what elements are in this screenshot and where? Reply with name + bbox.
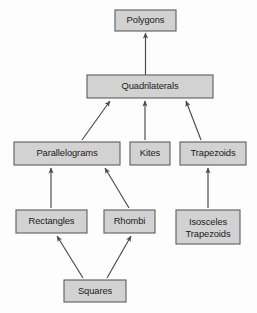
node-quadrilaterals[interactable]: Quadrilaterals	[87, 75, 213, 98]
node-label-isosceles_trapezoids-line2: Trapezoids	[185, 228, 230, 239]
node-parallelograms[interactable]: Parallelograms	[14, 142, 120, 165]
node-squares[interactable]: Squares	[64, 280, 126, 302]
node-label-trapezoids: Trapezoids	[190, 147, 235, 158]
edge-parallelograms-to-quadrilaterals	[82, 101, 110, 140]
node-label-rectangles: Rectangles	[29, 215, 75, 226]
node-trapezoids[interactable]: Trapezoids	[180, 142, 246, 165]
node-kites[interactable]: Kites	[130, 142, 170, 165]
node-label-polygons: Polygons	[127, 14, 165, 25]
polygon-hierarchy-diagram: PolygonsQuadrilateralsParallelogramsKite…	[0, 0, 257, 313]
diagram-canvas: PolygonsQuadrilateralsParallelogramsKite…	[0, 0, 257, 313]
node-rectangles[interactable]: Rectangles	[16, 210, 87, 233]
node-isosceles_trapezoids[interactable]: IsoscelesTrapezoids	[176, 210, 240, 244]
node-label-squares: Squares	[78, 285, 113, 296]
edge-squares-to-rectangles	[57, 236, 83, 278]
node-rhombi[interactable]: Rhombi	[104, 210, 155, 233]
edge-squares-to-rhombi	[107, 236, 131, 278]
node-label-isosceles_trapezoids-line1: Isosceles	[189, 216, 228, 227]
nodes-layer: PolygonsQuadrilateralsParallelogramsKite…	[14, 10, 246, 302]
node-label-parallelograms: Parallelograms	[36, 147, 98, 158]
node-label-quadrilaterals: Quadrilaterals	[122, 80, 179, 91]
node-label-kites: Kites	[140, 147, 161, 158]
node-polygons[interactable]: Polygons	[115, 10, 176, 31]
node-label-rhombi: Rhombi	[114, 215, 146, 226]
edge-rhombi-to-parallelograms	[105, 168, 129, 208]
edge-trapezoids-to-quadrilaterals	[186, 101, 201, 140]
